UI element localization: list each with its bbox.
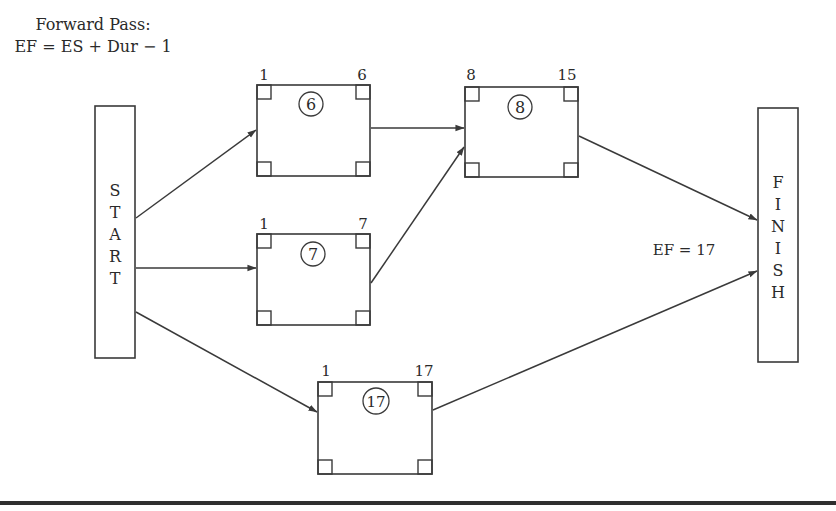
early-finish: 15 — [557, 66, 576, 84]
task-duration: 6 — [306, 95, 316, 114]
edges — [136, 128, 757, 412]
task-node-17[interactable]: 17 1 17 — [318, 362, 434, 474]
forward-pass-formula: EF = ES + Dur − 1 — [14, 37, 171, 56]
finish-letter: N — [771, 217, 785, 236]
finish-node[interactable]: F I N I S H — [758, 108, 798, 362]
edge-start-task6 — [136, 130, 256, 218]
task-duration: 7 — [308, 245, 318, 264]
edge-task17-finish — [433, 271, 757, 410]
start-letter: A — [108, 225, 121, 244]
start-letter: S — [110, 181, 121, 200]
task-node-6[interactable]: 6 1 6 — [257, 66, 370, 176]
task-duration: 8 — [515, 98, 525, 117]
early-finish: 6 — [357, 66, 367, 84]
early-start: 1 — [321, 362, 331, 380]
early-finish: 17 — [414, 362, 433, 380]
early-start: 1 — [259, 66, 269, 84]
finish-letter: S — [773, 261, 784, 280]
network-diagram: Forward Pass: EF = ES + Dur − 1 S T A R … — [0, 0, 836, 511]
finish-letter: I — [775, 195, 781, 214]
start-letter: R — [109, 247, 122, 266]
forward-pass-title: Forward Pass: — [35, 15, 150, 34]
finish-letter: H — [771, 283, 785, 302]
bottom-rule — [0, 501, 836, 505]
project-ef-label: EF = 17 — [653, 241, 716, 259]
edge-task8-finish — [579, 136, 757, 220]
early-start: 1 — [259, 215, 269, 233]
start-letter: T — [110, 269, 121, 288]
task-node-7[interactable]: 7 1 7 — [257, 215, 370, 325]
start-letter: T — [110, 203, 121, 222]
early-start: 8 — [466, 66, 476, 84]
finish-letter: F — [772, 173, 783, 192]
task-node-8[interactable]: 8 8 15 — [465, 66, 578, 177]
finish-letter: I — [775, 239, 781, 258]
start-node[interactable]: S T A R T — [95, 106, 135, 358]
edge-task7-task8 — [371, 147, 464, 283]
edge-start-task17 — [136, 312, 317, 412]
early-finish: 7 — [358, 215, 368, 233]
task-duration: 17 — [366, 393, 385, 411]
